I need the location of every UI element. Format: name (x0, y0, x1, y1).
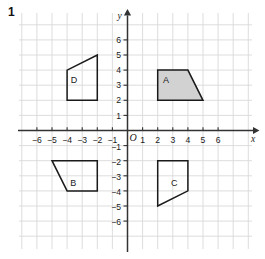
axis-tick-labels: −6−5−4−3−2−1123456654321−1−2−3−4−5−6Oxy (32, 11, 256, 228)
y-axis-label: y (117, 11, 123, 21)
x-tick-label: −5 (47, 135, 57, 145)
y-tick-label: −3 (111, 172, 121, 182)
worksheet-figure-panel: 1 −6−5−4−3−2−1123456654321−1−2−3−4−5−6Ox… (0, 0, 265, 259)
x-tick-label: 2 (155, 135, 160, 145)
x-tick-label: 1 (140, 135, 145, 145)
origin-label: O (130, 132, 137, 143)
x-axis-label: x (250, 134, 256, 144)
x-tick-label: −3 (77, 135, 87, 145)
shape-label-d: D (71, 75, 78, 85)
x-tick-label: 6 (216, 135, 221, 145)
shape-label-c: C (171, 178, 178, 188)
y-tick-label: −5 (111, 202, 121, 212)
y-tick-label: 3 (116, 80, 121, 90)
y-tick-label: −4 (111, 187, 121, 197)
x-tick-label: 4 (186, 135, 191, 145)
y-tick-label: −6 (111, 217, 121, 227)
y-tick-label: 2 (116, 95, 121, 105)
coordinate-plane-svg: −6−5−4−3−2−1123456654321−1−2−3−4−5−6Oxy … (0, 0, 265, 259)
y-tick-label: 6 (116, 35, 121, 45)
x-tick-label: −6 (32, 135, 42, 145)
shape-label-b: B (70, 178, 76, 188)
axes (18, 9, 260, 252)
x-tick-label: 5 (201, 135, 206, 145)
y-tick-label: 4 (116, 65, 121, 75)
y-tick-label: 1 (116, 111, 121, 121)
y-tick-label: −2 (111, 157, 121, 167)
shape-label-a: A (163, 75, 169, 85)
y-tick-label: 5 (116, 50, 121, 60)
y-tick-label: −1 (111, 142, 121, 152)
x-tick-label: −4 (62, 135, 72, 145)
x-tick-label: 3 (170, 135, 175, 145)
x-tick-label: −2 (92, 135, 102, 145)
coordinate-grid-figure: −6−5−4−3−2−1123456654321−1−2−3−4−5−6Oxy … (0, 0, 265, 259)
